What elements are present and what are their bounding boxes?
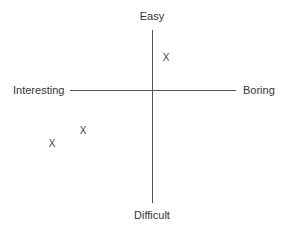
x-mark: X [49,139,56,149]
horizontal-axis-interesting-boring [70,90,236,91]
axis-label-bottom: Difficult [134,209,170,221]
axis-label-left: Interesting [13,84,64,96]
x-mark: X [80,126,87,136]
quadrant-diagram: Easy Difficult Interesting Boring X X X [0,0,284,225]
x-mark: X [163,53,170,63]
axis-label-top: Easy [140,10,164,22]
axis-label-right: Boring [243,84,275,96]
vertical-axis-easy-difficult [152,30,153,203]
